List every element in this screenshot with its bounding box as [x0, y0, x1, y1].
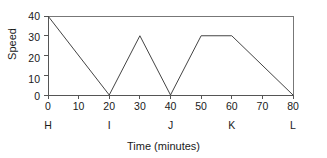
plot-frame [48, 16, 293, 95]
point-label-l: L [281, 120, 305, 130]
x-tick-label-40: 40 [159, 101, 183, 111]
point-label-i: I [97, 120, 121, 130]
x-tick-label-30: 30 [128, 101, 152, 111]
speed-line-series [48, 16, 293, 95]
point-label-j: J [159, 120, 183, 130]
x-tick-label-80: 80 [281, 101, 305, 111]
x-tick-label-0: 0 [36, 101, 60, 111]
x-tick-label-60: 60 [220, 101, 244, 111]
x-tick-label-50: 50 [189, 101, 213, 111]
plot-area [0, 0, 327, 158]
speed-time-chart: Speed 40 30 20 10 0 [0, 0, 327, 158]
x-tick-label-70: 70 [250, 101, 274, 111]
point-label-k: K [220, 120, 244, 130]
x-axis-title: Time (minutes) [0, 140, 327, 152]
x-tick-label-10: 10 [67, 101, 91, 111]
y-axis-ticks [44, 16, 48, 95]
x-tick-label-20: 20 [97, 101, 121, 111]
point-label-h: H [36, 120, 60, 130]
